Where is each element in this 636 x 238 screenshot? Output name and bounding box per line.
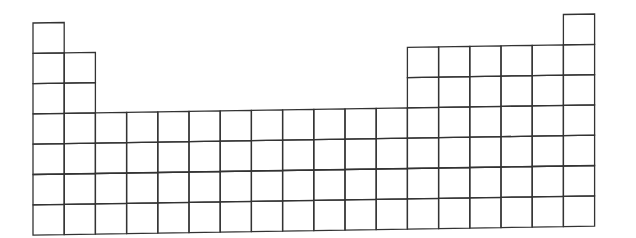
element-cell (220, 171, 251, 202)
element-cell (127, 203, 158, 234)
element-cell (501, 106, 532, 137)
element-cell (407, 138, 438, 169)
element-cell (563, 75, 594, 106)
element-cell (64, 174, 95, 205)
element-cell (251, 110, 282, 141)
element-cell (158, 111, 189, 142)
element-cell (470, 137, 501, 168)
element-cell (251, 140, 282, 171)
element-cell (127, 173, 158, 204)
element-cell (283, 170, 314, 201)
element-cell (563, 105, 594, 136)
element-cell (439, 77, 470, 108)
element-cell (407, 198, 438, 229)
element-cell (470, 167, 501, 198)
periodic-table-outline (0, 0, 636, 238)
element-cell (439, 137, 470, 168)
element-cell (501, 197, 532, 228)
element-cell (127, 112, 158, 143)
element-cell (470, 76, 501, 107)
element-cell (220, 110, 251, 141)
element-cell (563, 14, 594, 45)
element-cell (64, 143, 95, 174)
element-cell (501, 167, 532, 198)
element-cell (283, 200, 314, 231)
element-cell (158, 172, 189, 203)
element-cell (563, 135, 594, 166)
element-cell (64, 52, 95, 83)
element-cell (33, 144, 64, 175)
element-cell (439, 168, 470, 199)
element-cell (376, 108, 407, 139)
element-cell (345, 169, 376, 200)
element-cell (314, 170, 345, 201)
element-cell (283, 140, 314, 171)
element-cell (95, 203, 126, 234)
element-cell (376, 199, 407, 230)
element-cell (64, 113, 95, 144)
element-cell (407, 77, 438, 108)
element-cell (532, 75, 563, 106)
element-cell (314, 139, 345, 170)
element-cell (470, 106, 501, 137)
element-cell (501, 76, 532, 107)
element-cell (95, 112, 126, 143)
element-cell (563, 44, 594, 75)
element-cell (33, 23, 64, 54)
element-cell (158, 142, 189, 173)
element-cell (64, 204, 95, 235)
element-cell (220, 141, 251, 172)
element-cell (189, 111, 220, 142)
element-cell (33, 174, 64, 205)
element-cell (439, 46, 470, 77)
element-cell (532, 45, 563, 76)
element-cell (345, 139, 376, 170)
element-cell (376, 138, 407, 169)
element-cell (189, 202, 220, 233)
element-cell (251, 171, 282, 202)
element-cell (532, 136, 563, 167)
element-cell (501, 45, 532, 76)
element-cell (33, 53, 64, 84)
element-cell (532, 166, 563, 197)
element-cell (127, 142, 158, 173)
element-cell (158, 202, 189, 233)
element-cell (532, 105, 563, 136)
element-cell (283, 109, 314, 140)
element-cell (532, 196, 563, 227)
element-cell (439, 107, 470, 138)
element-cell (314, 109, 345, 140)
element-cell (95, 173, 126, 204)
element-cell (501, 136, 532, 167)
element-cell (407, 168, 438, 199)
element-cell (470, 197, 501, 228)
element-cell (439, 198, 470, 229)
element-cell (314, 200, 345, 231)
element-cell (563, 166, 594, 197)
element-cell (251, 201, 282, 232)
element-cell (189, 172, 220, 203)
element-cell (220, 201, 251, 232)
element-cell (33, 204, 64, 235)
element-cell (345, 108, 376, 139)
element-cell (189, 141, 220, 172)
element-cell (95, 143, 126, 174)
element-cell (563, 196, 594, 227)
element-cell (470, 46, 501, 77)
element-cell (33, 83, 64, 114)
element-cell (33, 113, 64, 144)
element-cell (407, 107, 438, 138)
element-cell (376, 169, 407, 200)
periodic-table-grid (0, 0, 636, 238)
element-cell (345, 199, 376, 230)
element-cell (407, 47, 438, 78)
element-cell (64, 83, 95, 114)
